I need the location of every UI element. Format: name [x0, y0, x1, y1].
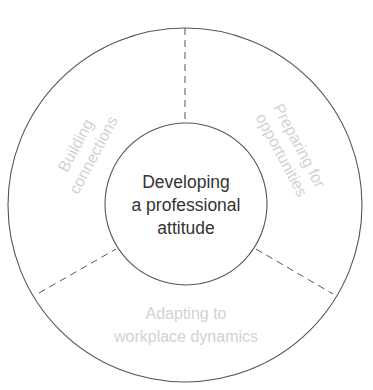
segment-label-line: Adapting to [146, 305, 227, 322]
divider-bottom-right [256, 249, 333, 294]
segment-label-adapting-workplace: Adapting to workplace dynamics [113, 305, 258, 345]
ring-diagram: Developing a professional attitude Build… [0, 0, 373, 390]
segment-label-line: workplace dynamics [113, 328, 258, 345]
center-label-line: a professional [132, 195, 241, 215]
center-label-line: attitude [157, 218, 214, 238]
center-label-line: Developing [142, 172, 230, 192]
divider-bottom-left [39, 249, 116, 293]
